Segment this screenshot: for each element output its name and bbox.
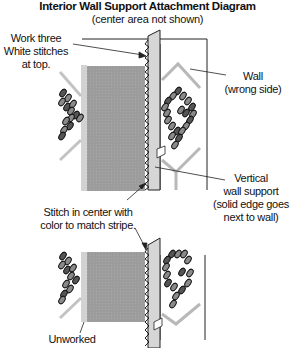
heart-motif-top-icon xyxy=(160,86,197,150)
label-vertical-support: Vertical wall support (solid edge goes n… xyxy=(205,172,295,224)
stitched-canvas-top-icon xyxy=(60,65,145,191)
left-stitch-motif-bottom-icon xyxy=(57,251,80,305)
label-wall: Wall (wrong side) xyxy=(218,70,288,96)
label-unworked: Unworked xyxy=(42,333,102,346)
heart-motif-bottom-icon xyxy=(161,249,194,309)
label-stitch-center: Stitch in center with color to match str… xyxy=(33,206,143,232)
label-work-three: Work three White stitches at top. xyxy=(2,32,70,71)
